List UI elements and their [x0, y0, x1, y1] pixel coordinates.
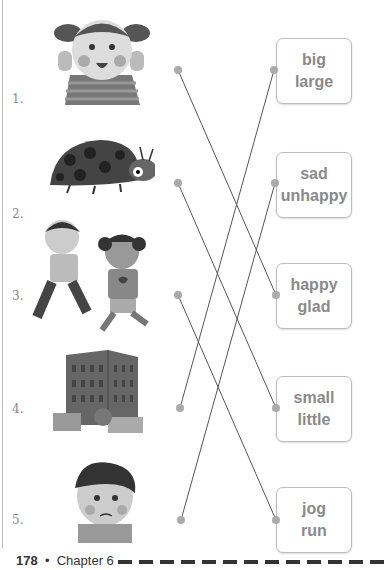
word-box-sad-unhappy[interactable]: sad unhappy	[276, 152, 352, 218]
word-box-line2: little	[298, 409, 331, 431]
dot-left-5[interactable]	[177, 516, 185, 524]
word-box-line2: run	[301, 520, 327, 542]
word-box-line1: sad	[300, 163, 328, 185]
word-box-line1: small	[294, 387, 335, 409]
word-box-line1: big	[302, 49, 326, 71]
word-box-line1: jog	[302, 498, 326, 520]
word-box-line2: glad	[298, 296, 331, 318]
dot-left-1[interactable]	[174, 66, 182, 74]
dot-left-3[interactable]	[174, 291, 182, 299]
dot-left-2[interactable]	[174, 179, 182, 187]
word-box-line2: large	[295, 71, 333, 93]
word-box-jog-run[interactable]: jog run	[276, 487, 352, 553]
word-box-happy-glad[interactable]: happy glad	[276, 263, 352, 329]
footer-separator: •	[45, 553, 50, 568]
word-box-big-large[interactable]: big large	[276, 38, 352, 104]
page-number: 178	[16, 553, 38, 568]
word-box-line2: unhappy	[281, 185, 348, 207]
dot-left-4[interactable]	[176, 404, 184, 412]
chapter-label: Chapter 6	[57, 553, 114, 568]
footer-dashed-rule	[118, 560, 384, 564]
word-box-small-little[interactable]: small little	[276, 376, 352, 442]
word-box-line1: happy	[290, 274, 337, 296]
page-footer: 178 • Chapter 6	[16, 553, 114, 568]
